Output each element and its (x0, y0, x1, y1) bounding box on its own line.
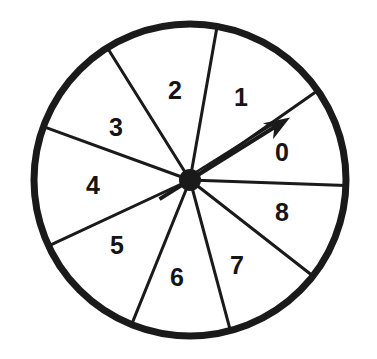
sector-label-4: 4 (86, 171, 100, 199)
wheel-hub (179, 169, 201, 191)
sector-label-6: 6 (170, 263, 184, 291)
spinner-graphic: 012345678 (0, 0, 377, 359)
sector-label-2: 2 (168, 76, 182, 104)
sector-label-8: 8 (275, 198, 289, 226)
sector-label-7: 7 (230, 251, 244, 279)
spinner-figure: 012345678 (0, 0, 377, 359)
sector-label-1: 1 (234, 83, 248, 111)
sector-label-5: 5 (110, 231, 124, 259)
sector-label-0: 0 (275, 138, 289, 166)
sector-label-3: 3 (109, 113, 123, 141)
